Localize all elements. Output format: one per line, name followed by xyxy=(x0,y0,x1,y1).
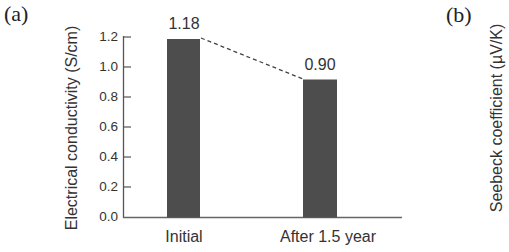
y-ticks xyxy=(123,37,131,187)
bar-value-label-initial: 1.18 xyxy=(168,16,199,32)
panel-a-plot xyxy=(0,0,509,252)
panel-b-ylabel: Seebeck coefficient (µV/K) xyxy=(488,24,506,213)
ytick-label: 0.4 xyxy=(88,150,118,164)
bar-value-label-after: 0.90 xyxy=(304,57,335,73)
ytick-label: 1.2 xyxy=(88,30,118,44)
ytick-label: 1.0 xyxy=(88,60,118,74)
ytick-label: 0.8 xyxy=(88,90,118,104)
ytick-label: 0.6 xyxy=(88,120,118,134)
ytick-label: 0.0 xyxy=(88,210,118,224)
trend-dashed-line xyxy=(201,38,303,79)
category-label-initial: Initial xyxy=(165,229,202,245)
panel-b-label: (b) xyxy=(446,4,472,26)
category-label-after: After 1.5 year xyxy=(280,229,376,245)
ytick-label: 0.2 xyxy=(88,180,118,194)
bar-initial xyxy=(167,39,200,218)
bar-after-1-5-year xyxy=(303,80,337,218)
